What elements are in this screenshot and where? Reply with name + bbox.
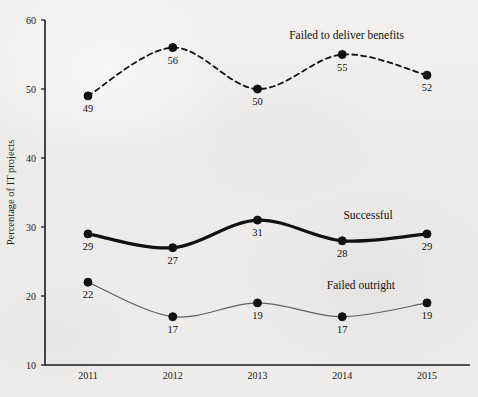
- data-label-successful-2015: 29: [422, 241, 433, 252]
- x-tick-label: 2015: [417, 370, 437, 381]
- data-point-successful-2014[interactable]: [338, 237, 346, 245]
- data-label-successful-2011: 29: [83, 241, 94, 252]
- data-label-successful-2013: 31: [252, 227, 263, 238]
- line-chart: 102030405060Percentage of IT projects201…: [0, 0, 478, 397]
- data-point-failed-outright-2011[interactable]: [84, 278, 92, 286]
- data-label-failed-to-deliver-benefits-2013: 50: [252, 96, 263, 107]
- x-tick-label: 2013: [248, 370, 268, 381]
- data-label-successful-2014: 28: [337, 248, 348, 259]
- data-point-failed-outright-2013[interactable]: [254, 299, 262, 307]
- data-point-failed-to-deliver-benefits-2011[interactable]: [84, 92, 92, 100]
- x-tick-label: 2011: [78, 370, 98, 381]
- data-point-failed-outright-2012[interactable]: [169, 313, 177, 321]
- data-point-successful-2011[interactable]: [84, 230, 92, 238]
- data-label-failed-outright-2012: 17: [168, 324, 179, 335]
- data-point-failed-to-deliver-benefits-2014[interactable]: [338, 51, 346, 59]
- data-point-failed-to-deliver-benefits-2012[interactable]: [169, 44, 177, 52]
- data-label-failed-outright-2015: 19: [422, 310, 433, 321]
- x-tick-label: 2014: [332, 370, 352, 381]
- data-label-failed-outright-2011: 22: [83, 289, 94, 300]
- data-point-successful-2015[interactable]: [423, 230, 431, 238]
- data-point-successful-2012[interactable]: [169, 244, 177, 252]
- y-axis-title: Percentage of IT projects: [5, 140, 16, 246]
- y-tick-label: 50: [26, 84, 36, 95]
- data-point-failed-outright-2015[interactable]: [423, 299, 431, 307]
- data-label-failed-to-deliver-benefits-2015: 52: [422, 82, 433, 93]
- series-label-failed-to-deliver-benefits: Failed to deliver benefits: [289, 29, 404, 41]
- x-tick-label: 2012: [163, 370, 183, 381]
- series-label-successful: Successful: [343, 209, 392, 221]
- data-point-successful-2013[interactable]: [254, 216, 262, 224]
- data-label-failed-outright-2013: 19: [252, 310, 263, 321]
- data-label-failed-to-deliver-benefits-2014: 55: [337, 62, 348, 73]
- y-tick-label: 40: [26, 153, 36, 164]
- data-point-failed-to-deliver-benefits-2013[interactable]: [254, 85, 262, 93]
- chart-canvas: 102030405060Percentage of IT projects201…: [0, 0, 478, 397]
- data-label-failed-to-deliver-benefits-2012: 56: [168, 55, 179, 66]
- data-label-successful-2012: 27: [168, 255, 179, 266]
- y-tick-label: 60: [26, 15, 36, 26]
- data-point-failed-to-deliver-benefits-2015[interactable]: [423, 71, 431, 79]
- data-label-failed-to-deliver-benefits-2011: 49: [83, 103, 94, 114]
- data-point-failed-outright-2014[interactable]: [338, 313, 346, 321]
- series-label-failed-outright: Failed outright: [327, 279, 396, 292]
- y-tick-label: 20: [26, 291, 36, 302]
- y-tick-label: 10: [26, 360, 36, 371]
- y-tick-label: 30: [26, 222, 36, 233]
- data-label-failed-outright-2014: 17: [337, 324, 348, 335]
